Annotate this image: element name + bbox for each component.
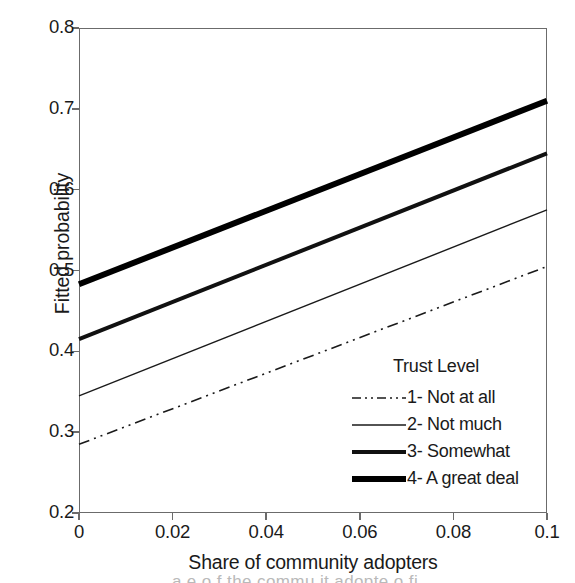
legend-entry: 2- Not much	[352, 411, 542, 438]
legend: Trust Level 1- Not at all2- Not much3- S…	[352, 356, 542, 492]
x-tick-label: 0.02	[138, 521, 208, 543]
legend-swatch-line-1	[352, 391, 406, 405]
x-tick-label: 0.1	[512, 521, 575, 543]
x-tick-label: 0.06	[325, 521, 395, 543]
legend-label: 2- Not much	[406, 414, 502, 435]
y-axis-title: Fitted probability	[51, 114, 74, 374]
y-axis-title-host: Fitted probability	[22, 0, 52, 583]
series-line-4	[79, 101, 547, 284]
legend-entry: 3- Somewhat	[352, 438, 542, 465]
cut-off-caption: a e o f the commu it adopte o fi	[60, 572, 530, 583]
legend-entries: 1- Not at all2- Not much3- Somewhat4- A …	[352, 384, 542, 492]
x-tick-label: 0.08	[418, 521, 488, 543]
x-axis-title: Share of community adopters	[79, 551, 547, 574]
legend-swatch-line-3	[352, 445, 406, 459]
x-tick-label: 0	[44, 521, 114, 543]
x-tick-label: 0.04	[231, 521, 301, 543]
legend-swatch-line-2	[352, 418, 406, 432]
legend-label: 1- Not at all	[406, 387, 495, 408]
legend-swatch-line-4	[352, 472, 406, 486]
legend-entry: 4- A great deal	[352, 465, 542, 492]
legend-entry: 1- Not at all	[352, 384, 542, 411]
legend-title: Trust Level	[352, 356, 542, 377]
legend-label: 4- A great deal	[406, 468, 519, 489]
figure-fitted-probability: 0.20.30.40.50.60.70.8 00.020.040.060.080…	[0, 0, 575, 583]
legend-label: 3- Somewhat	[406, 441, 510, 462]
series-line-3	[79, 153, 547, 339]
series-lines-layer	[0, 0, 575, 583]
